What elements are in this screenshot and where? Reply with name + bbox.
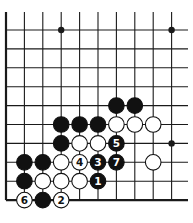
black-stone-icon <box>17 155 33 171</box>
black-stone <box>109 98 125 114</box>
black-stone <box>127 98 143 114</box>
white-stone-move-6: 6 <box>17 192 33 208</box>
white-stone-move-2: 2 <box>53 192 69 208</box>
stones: 5437162 <box>17 98 161 208</box>
black-stone-move-3: 3 <box>90 155 106 171</box>
black-stone <box>72 117 88 133</box>
white-stone-icon <box>145 117 161 133</box>
black-stone <box>17 173 33 189</box>
black-stone-move-7: 7 <box>109 155 125 171</box>
black-stone-icon <box>72 117 88 133</box>
white-stone <box>127 117 143 133</box>
white-stone-move-4: 4 <box>72 155 88 171</box>
grid-lines <box>6 12 188 200</box>
white-stone-icon <box>90 136 106 152</box>
black-stone-icon <box>53 117 69 133</box>
black-stone-icon <box>17 173 33 189</box>
move-number-label: 1 <box>94 175 101 187</box>
go-board-svg: 5437162 <box>0 0 193 223</box>
black-stone-move-1: 1 <box>90 173 106 189</box>
star-point-icon <box>168 27 174 33</box>
white-stone-icon <box>109 117 125 133</box>
move-number-label: 5 <box>113 137 120 149</box>
white-stone <box>145 155 161 171</box>
black-stone <box>53 117 69 133</box>
move-number-label: 2 <box>58 194 65 206</box>
black-stone-icon <box>35 192 51 208</box>
move-number-label: 7 <box>113 156 120 168</box>
black-stone-icon <box>109 98 125 114</box>
white-stone-icon <box>72 136 88 152</box>
white-stone <box>72 136 88 152</box>
black-stone <box>53 136 69 152</box>
black-stone-icon <box>127 98 143 114</box>
white-stone-icon <box>53 155 69 171</box>
white-stone-icon <box>53 173 69 189</box>
black-stone <box>35 155 51 171</box>
move-number-label: 3 <box>94 156 101 168</box>
black-stone-icon <box>35 155 51 171</box>
white-stone-icon <box>35 173 51 189</box>
star-point-icon <box>168 140 174 146</box>
white-stone-icon <box>72 173 88 189</box>
white-stone-icon <box>127 117 143 133</box>
black-stone-icon <box>90 117 106 133</box>
star-point-icon <box>58 27 64 33</box>
white-stone-icon <box>145 155 161 171</box>
white-stone <box>109 117 125 133</box>
white-stone <box>53 155 69 171</box>
move-number-label: 6 <box>21 194 28 206</box>
white-stone <box>53 173 69 189</box>
black-stone <box>90 117 106 133</box>
white-stone <box>145 117 161 133</box>
black-stone-icon <box>53 136 69 152</box>
black-stone <box>35 192 51 208</box>
white-stone <box>72 173 88 189</box>
black-stone-move-5: 5 <box>109 136 125 152</box>
black-stone <box>17 155 33 171</box>
white-stone <box>35 173 51 189</box>
move-number-label: 4 <box>76 156 83 168</box>
white-stone <box>90 136 106 152</box>
go-board-diagram: 5437162 <box>0 0 193 223</box>
